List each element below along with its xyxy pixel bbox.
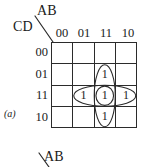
kmap-row-headers: 00 01 11 10 — [22, 42, 49, 128]
kmap-cell[interactable] — [52, 107, 73, 128]
kmap-cell-value — [116, 64, 136, 84]
kmap-cell-value: 1 — [116, 86, 136, 106]
kmap-column-headers: 00 01 11 10 — [51, 25, 139, 41]
kmap-cell-value — [52, 107, 72, 127]
kmap-cell[interactable] — [52, 86, 73, 107]
row-header-3: 10 — [22, 107, 49, 129]
kmap-cell[interactable] — [116, 64, 137, 85]
kmap-cell[interactable] — [116, 107, 137, 128]
kmap-cell-value — [52, 64, 72, 84]
next-figure-top-variables-label: AB — [44, 149, 64, 164]
kmap-cell[interactable] — [52, 43, 73, 64]
column-header-2: 11 — [95, 25, 117, 41]
column-header-1: 01 — [73, 25, 95, 41]
kmap-cell[interactable] — [73, 107, 94, 128]
kmap-cell-value: 1 — [95, 107, 115, 127]
kmap-cell-value — [52, 43, 72, 63]
kmap-cell[interactable] — [116, 43, 137, 64]
kmap-cell[interactable] — [95, 43, 116, 64]
kmap-cell[interactable]: 1 — [95, 107, 116, 128]
row-header-1: 01 — [22, 64, 49, 86]
kmap-cell-value — [52, 86, 72, 106]
row-header-0: 00 — [22, 42, 49, 64]
column-header-3: 10 — [117, 25, 139, 41]
kmap-cell-value: 1 — [95, 86, 115, 106]
column-header-0: 00 — [51, 25, 73, 41]
kmap-cell[interactable] — [73, 43, 94, 64]
kmap-cell-value — [73, 64, 93, 84]
kmap-cell[interactable]: 1 — [95, 64, 116, 85]
kmap-cell-value: 1 — [73, 86, 93, 106]
kmap-cell[interactable]: 1 — [116, 86, 137, 107]
kmap-cell-value — [116, 43, 136, 63]
figure-caption: (a) — [4, 108, 16, 120]
kmap-cell[interactable]: 1 — [73, 86, 94, 107]
kmap-grid: 1 1 1 1 1 — [51, 42, 137, 128]
kmap-cell-value: 1 — [95, 64, 115, 84]
kmap-cell[interactable] — [73, 64, 94, 85]
kmap-cell[interactable] — [52, 64, 73, 85]
kmap-cell[interactable]: 1 — [95, 86, 116, 107]
karnaugh-map-figure: AB CD 00 01 11 10 00 01 11 10 1 1 1 1 1 — [0, 0, 146, 167]
kmap-cell-value — [73, 107, 93, 127]
row-header-2: 11 — [22, 85, 49, 107]
kmap-left-variables-label: CD — [13, 19, 33, 34]
kmap-cell-value — [116, 107, 136, 127]
kmap-cell-value — [73, 43, 93, 63]
kmap-cell-value — [95, 43, 115, 63]
